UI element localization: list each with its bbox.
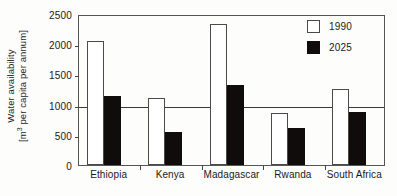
x-axis-tick-labels: EthiopiaKenyaMadagascarRwandaSouth Afric… — [78, 169, 385, 189]
y-axis-unit-prefix: [m — [17, 131, 28, 142]
x-axis-tick-label-south-africa: South Africa — [327, 169, 382, 180]
legend-swatch-1990 — [307, 20, 320, 33]
x-axis-category-separator — [140, 165, 141, 170]
bar-south-africa-2025 — [349, 112, 366, 165]
legend-entry-1990: 1990 — [307, 20, 352, 33]
y-axis-tick-label: 500 — [55, 130, 72, 141]
y-axis-title: Water availability [m3 per capita per an… — [0, 0, 34, 172]
x-axis-category-separator — [325, 165, 326, 170]
legend-label-2025: 2025 — [329, 42, 352, 53]
y-axis-tick-labels: 05001000150020002500 — [34, 0, 76, 196]
bar-ethiopia-1990 — [87, 41, 104, 165]
y-axis-tick-label: 0 — [66, 161, 72, 172]
water-availability-bar-chart: Water availability [m3 per capita per an… — [0, 0, 397, 196]
bar-south-africa-1990 — [332, 89, 349, 165]
bar-kenya-2025 — [165, 132, 182, 165]
x-axis-tick-label-rwanda: Rwanda — [274, 169, 311, 180]
y-axis-unit-exponent: 3 — [16, 127, 23, 131]
x-axis-tick-label-ethiopia: Ethiopia — [90, 169, 127, 180]
y-axis-tick-label: 2500 — [49, 10, 72, 21]
bar-rwanda-2025 — [288, 128, 305, 165]
legend-label-1990: 1990 — [329, 21, 352, 32]
bar-madagascar-2025 — [227, 85, 244, 165]
x-axis-tick-label-kenya: Kenya — [156, 169, 185, 180]
y-axis-tick-label: 1500 — [49, 70, 72, 81]
y-axis-unit-suffix: per capita per annum] — [17, 30, 28, 127]
bar-rwanda-1990 — [271, 113, 288, 165]
chart-legend: 19902025 — [307, 20, 352, 62]
y-axis-tick-label: 1000 — [49, 100, 72, 111]
legend-entry-2025: 2025 — [307, 41, 352, 54]
x-axis-category-separator — [202, 165, 203, 170]
bar-kenya-1990 — [148, 98, 165, 165]
x-axis-tick-label-madagascar: Madagascar — [203, 169, 259, 180]
x-axis-category-separator — [263, 165, 264, 170]
y-axis-tick-label: 2000 — [49, 40, 72, 51]
bar-ethiopia-2025 — [104, 96, 121, 165]
legend-swatch-2025 — [307, 41, 320, 54]
y-axis-title-line-2: [m3 per capita per annum] — [17, 30, 29, 142]
bar-madagascar-1990 — [210, 24, 227, 165]
y-axis-title-line-1: Water availability — [5, 30, 17, 142]
